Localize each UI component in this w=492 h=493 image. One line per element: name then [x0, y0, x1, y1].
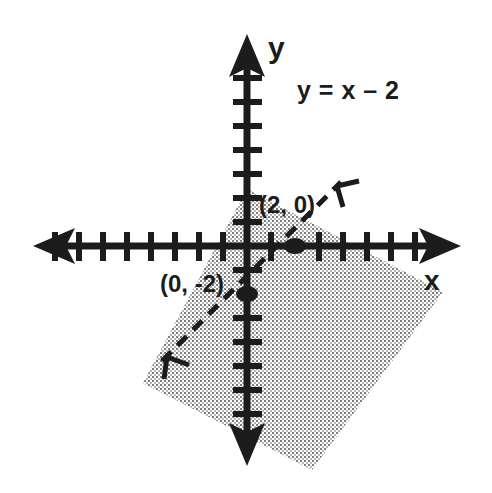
coordinate-graph-figure: y x y = x – 2 (2, 0) (0, -2)	[0, 0, 492, 493]
point-marker-2-0	[284, 238, 306, 254]
x-intercept-label: (2, 0)	[259, 193, 315, 217]
boundary-line-arrow-up-right	[337, 181, 359, 207]
y-axis-ticks-positive	[233, 78, 262, 222]
y-intercept-label: (0, -2)	[160, 272, 224, 296]
graph-canvas	[0, 0, 492, 493]
equation-label: y = x – 2	[297, 78, 400, 103]
axis-label-x: x	[424, 267, 440, 295]
axis-label-y: y	[268, 33, 285, 63]
point-marker-0-neg2	[236, 286, 258, 302]
